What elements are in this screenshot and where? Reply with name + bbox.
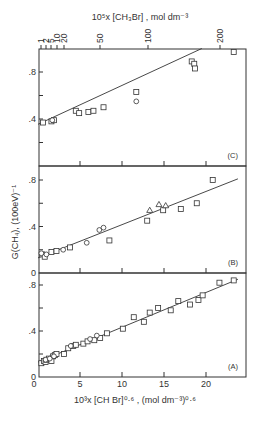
circle-marker (68, 344, 73, 349)
top-axis-tick-label: 50 (95, 33, 105, 43)
panel-label: (A) (228, 362, 239, 371)
y-axis-title: G(CH₄), (100eV)⁻¹ (10, 185, 20, 260)
square-marker (86, 109, 91, 114)
square-marker (176, 299, 181, 304)
circle-marker (52, 354, 57, 359)
square-marker (194, 201, 199, 206)
panel-a: 0.4.8(A) (28, 273, 246, 382)
circle-marker (101, 225, 106, 230)
top-axis-title: 10⁵x [CH₃Br] , mol dm⁻³ (92, 12, 188, 22)
circle-marker (84, 240, 89, 245)
square-marker (147, 310, 152, 315)
square-marker (41, 120, 46, 125)
bottom-axis: 0510152010³x [CH Br]⁰·⁶ , (mol dm⁻³)⁰·⁶ (31, 379, 211, 405)
top-axis: 12510205010020010⁵x [CH₃Br] , mol dm⁻³ (36, 12, 225, 49)
circle-marker (134, 99, 139, 104)
triangle-marker (163, 203, 169, 208)
square-marker (120, 326, 125, 331)
top-axis-tick-label: 100 (143, 29, 153, 43)
square-marker (188, 302, 193, 307)
x-axis-title: 10³x [CH Br]⁰·⁶ , (mol dm⁻³)⁰·⁶ (74, 395, 196, 405)
x-origin-label: 0 (31, 379, 36, 389)
circle-marker (39, 251, 44, 256)
square-marker (193, 66, 198, 71)
square-marker (145, 218, 150, 223)
x-tick-label: 20 (201, 379, 211, 389)
square-marker (104, 331, 109, 336)
y-tick-label: .8 (28, 280, 36, 290)
triangle-marker (156, 201, 162, 206)
square-marker (54, 248, 59, 253)
circle-marker (94, 333, 99, 338)
panel-label: (C) (228, 151, 239, 160)
square-marker (210, 178, 215, 183)
square-marker (101, 105, 106, 110)
x-tick-label: 10 (117, 379, 127, 389)
top-axis-tick-label: 20 (59, 33, 69, 43)
square-marker (192, 61, 197, 66)
square-marker (131, 315, 136, 320)
circle-marker (44, 252, 49, 257)
x-tick-label: 15 (159, 379, 169, 389)
square-marker (77, 111, 82, 116)
circle-marker (61, 247, 66, 252)
circle-marker (88, 337, 93, 342)
triangle-marker (147, 207, 153, 212)
square-marker (231, 50, 236, 55)
y-tick-label: .8 (28, 67, 36, 77)
square-marker (134, 89, 139, 94)
square-marker (67, 245, 72, 250)
fit-line (38, 49, 202, 125)
y-tick-label: .8 (28, 175, 36, 185)
y-tick-label: .4 (28, 114, 36, 124)
y-tick-label: .4 (28, 222, 36, 232)
top-axis-tick-label: 200 (215, 29, 225, 43)
square-marker (178, 207, 183, 212)
square-marker (49, 250, 54, 255)
panel-b: 0.4.8(B) (28, 166, 246, 278)
square-marker (156, 306, 161, 311)
x-tick-label: 5 (77, 379, 82, 389)
chart: .4.8(C)0.4.8(B)0.4.8(A)12510205010020010… (0, 0, 259, 424)
y-tick-label: .4 (28, 326, 36, 336)
y-tick-label: 0 (31, 268, 36, 278)
square-marker (91, 108, 96, 113)
panel-label: (B) (228, 258, 239, 267)
square-marker (107, 238, 112, 243)
square-marker (161, 208, 166, 213)
square-marker (62, 352, 67, 357)
circle-marker (50, 118, 55, 123)
square-marker (141, 319, 146, 324)
square-marker (168, 308, 173, 313)
square-marker (200, 293, 205, 298)
square-marker (217, 280, 222, 285)
square-marker (231, 278, 236, 283)
square-marker (73, 342, 78, 347)
panel-frame (39, 49, 246, 166)
panel-c: .4.8(C) (28, 49, 246, 167)
